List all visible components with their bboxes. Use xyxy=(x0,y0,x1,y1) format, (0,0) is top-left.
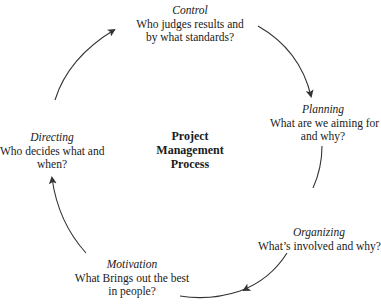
node-question-line: Who decides what and xyxy=(0,145,104,159)
node-planning: Planning What are we aiming for and why? xyxy=(270,103,376,144)
node-question-line: Who judges results and xyxy=(115,18,265,32)
center-line-1: Project xyxy=(140,129,240,143)
node-title: Control xyxy=(115,4,265,18)
node-organizing: Organizing What’s involved and why? xyxy=(258,226,380,253)
arrow-control-to-planning xyxy=(258,26,311,96)
arrowhead-organizing-to-motivation xyxy=(244,253,287,290)
node-title: Organizing xyxy=(258,226,380,240)
node-title: Motivation xyxy=(64,258,200,272)
center-line-2: Management xyxy=(140,143,240,157)
node-title: Directing xyxy=(0,131,104,145)
arrow-motivation-to-directing xyxy=(52,178,86,253)
center-line-3: Process xyxy=(140,157,240,171)
node-question-line: What are we aiming for xyxy=(270,117,376,131)
node-question-line: What’s involved and why? xyxy=(258,240,380,254)
center-label: Project Management Process xyxy=(140,129,240,171)
node-question-line: by what standards? xyxy=(115,31,265,45)
node-control: Control Who judges results and by what s… xyxy=(115,4,265,45)
node-question-line: in people? xyxy=(64,285,200,299)
node-question-line: when? xyxy=(0,158,104,172)
node-directing: Directing Who decides what and when? xyxy=(0,131,104,172)
node-question-line: and why? xyxy=(270,130,376,144)
arrow-directing-to-control xyxy=(55,30,114,100)
arrow-planning-to-organizing xyxy=(313,146,322,188)
node-motivation: Motivation What Brings out the best in p… xyxy=(64,258,200,299)
node-title: Planning xyxy=(270,103,376,117)
node-question-line: What Brings out the best xyxy=(64,272,200,286)
